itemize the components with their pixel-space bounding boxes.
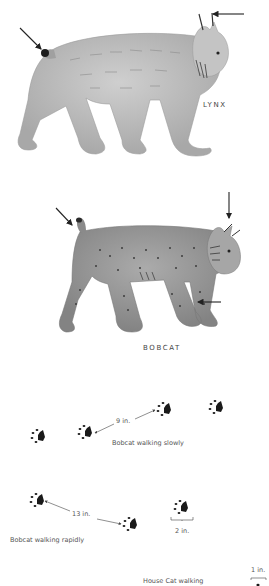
paw-print [209,400,223,414]
paw-print [174,500,188,514]
slow-distance-label: 9 in. [116,417,130,425]
paw-print [157,402,171,416]
rapid-caption: Bobcat walking rapidly [10,536,84,544]
housecat-print-width-label: 1 in. [251,566,265,574]
slow-caption: Bobcat walking slowly [112,439,184,447]
paw-print [30,493,44,507]
lynx-label: LYNX [203,101,227,109]
rapid-distance-label: 13 in. [72,510,90,518]
measurement-lines [45,410,266,580]
print-width-label: 2 in. [175,527,189,535]
track-prints [30,400,260,586]
illustration-canvas [0,0,269,586]
paw-print [78,425,92,439]
housecat-caption: House Cat walking [143,577,204,585]
paw-print [123,517,137,531]
lynx-illustration [18,13,244,156]
paw-print [31,429,45,443]
bobcat-label: BOBCAT [143,344,181,352]
bobcat-illustration [56,192,241,332]
